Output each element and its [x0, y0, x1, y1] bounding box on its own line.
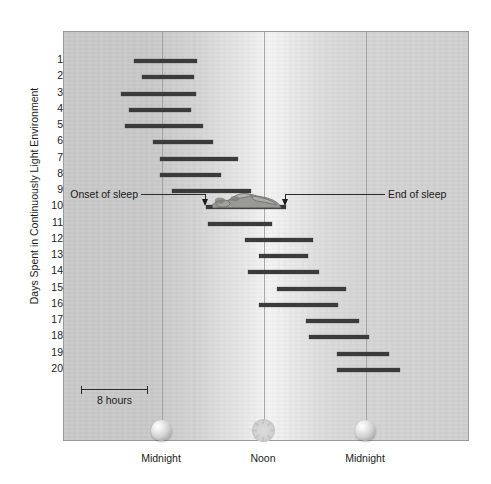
x-tick-label-midnight-0: Midnight [141, 452, 181, 464]
y-tick-label-10: 10 [41, 200, 63, 211]
y-tick-label-15: 15 [41, 282, 63, 293]
y-tick-label-12: 12 [41, 233, 63, 244]
sleep-bar-day-1 [134, 59, 197, 63]
y-tick-label-18: 18 [41, 330, 63, 341]
y-tick-label-3: 3 [41, 87, 63, 98]
y-tick-label-11: 11 [41, 217, 63, 228]
sleep-bar-day-16 [259, 303, 338, 307]
moon-icon-2 [355, 420, 376, 441]
end-of-sleep-leader-line [285, 194, 385, 195]
moon-icon-0 [151, 420, 172, 441]
y-tick-label-5: 5 [41, 119, 63, 130]
y-tick-label-20: 20 [41, 363, 63, 374]
y-tick-label-13: 13 [41, 249, 63, 260]
sun-icon [252, 419, 275, 442]
x-tick-label-noon-1: Noon [250, 452, 275, 464]
sleep-bar-day-11 [208, 222, 272, 226]
sleep-bar-day-6 [153, 140, 213, 144]
y-tick-label-16: 16 [41, 298, 63, 309]
onset-of-sleep-leader-line [141, 194, 205, 195]
sleep-bar-day-12 [245, 238, 313, 242]
sleep-bar-day-17 [306, 319, 360, 323]
sleep-bar-day-4 [129, 108, 191, 112]
y-tick-label-19: 19 [41, 347, 63, 358]
sleep-bar-day-10 [206, 205, 286, 209]
gridline-midnight-2 [366, 32, 367, 440]
sleep-bar-day-8 [160, 173, 220, 177]
sleep-bar-day-19 [337, 352, 389, 356]
end-of-sleep-arrowhead [282, 199, 288, 206]
scale-bar-label: 8 hours [81, 394, 148, 406]
actogram-figure: Days Spent in Continuously Light Environ… [0, 0, 491, 484]
sleep-bar-day-15 [277, 287, 346, 291]
sleep-bar-day-20 [337, 368, 400, 372]
gridline-noon-1 [264, 32, 265, 440]
y-tick-label-6: 6 [41, 135, 63, 146]
onset-of-sleep-arrowhead [202, 199, 208, 206]
onset-of-sleep-label: Onset of sleep [70, 188, 138, 200]
sleep-bar-day-14 [248, 270, 319, 274]
sleep-bar-day-9 [172, 189, 251, 193]
scale-bar-line [81, 389, 148, 390]
y-tick-label-1: 1 [41, 54, 63, 65]
y-tick-label-8: 8 [41, 168, 63, 179]
plot-area [63, 31, 469, 441]
y-tick-label-14: 14 [41, 265, 63, 276]
y-tick-label-17: 17 [41, 314, 63, 325]
y-axis-tick-labels: 1234567891011121314151617181920 [38, 31, 63, 441]
y-tick-label-4: 4 [41, 103, 63, 114]
y-tick-label-9: 9 [41, 184, 63, 195]
sleep-bar-day-2 [142, 75, 194, 79]
end-of-sleep-label: End of sleep [388, 188, 446, 200]
y-tick-label-7: 7 [41, 152, 63, 163]
sleep-bar-day-7 [160, 157, 237, 161]
sleep-bar-day-3 [121, 92, 196, 96]
sleep-bar-day-18 [309, 335, 369, 339]
sleep-bar-day-13 [259, 254, 308, 258]
sleep-bar-day-5 [125, 124, 202, 128]
x-tick-label-midnight-2: Midnight [345, 452, 385, 464]
y-tick-label-2: 2 [41, 70, 63, 81]
